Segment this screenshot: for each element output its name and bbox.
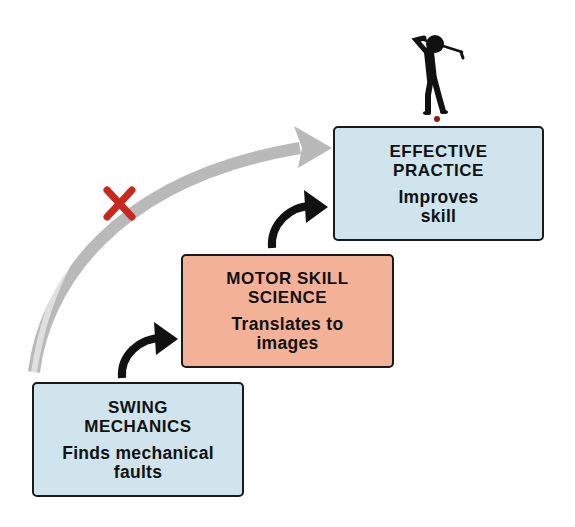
step-box-motor-skill-science: MOTOR SKILL SCIENCE Translates to images: [181, 254, 394, 368]
step-description-line: faults: [34, 463, 242, 482]
step-description-line: images: [183, 334, 392, 353]
step-title-line: PRACTICE: [335, 161, 542, 180]
step-description-line: skill: [335, 207, 542, 226]
curved-step-arrow-icon: [272, 190, 328, 248]
step-title-line: SCIENCE: [183, 288, 392, 307]
step-title-line: SWING: [34, 398, 242, 417]
step-description: Finds mechanical faults: [34, 444, 242, 482]
curved-step-arrow-icon: [122, 322, 178, 378]
step-description-line: Translates to: [183, 315, 392, 334]
step-title: SWING MECHANICS: [34, 398, 242, 436]
step-title: MOTOR SKILL SCIENCE: [183, 269, 392, 307]
golfer-icon: [416, 35, 463, 115]
step-box-effective-practice: EFFECTIVE PRACTICE Improves skill: [333, 126, 544, 241]
step-box-swing-mechanics: SWING MECHANICS Finds mechanical faults: [32, 382, 244, 497]
step-description-line: Finds mechanical: [34, 444, 242, 463]
step-description: Translates to images: [183, 315, 392, 353]
step-title-line: MECHANICS: [34, 417, 242, 436]
step-description: Improves skill: [335, 188, 542, 226]
step-title-line: MOTOR SKILL: [183, 269, 392, 288]
step-title-line: EFFECTIVE: [335, 142, 542, 161]
step-description-line: Improves: [335, 188, 542, 207]
step-title: EFFECTIVE PRACTICE: [335, 142, 542, 180]
x-mark-icon: [107, 190, 132, 217]
golf-ball-icon: [434, 116, 440, 122]
